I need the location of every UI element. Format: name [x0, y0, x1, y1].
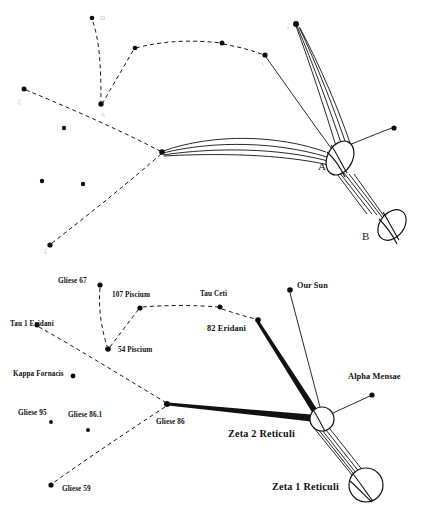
faint-label-zeta-bottom: ζ [44, 247, 47, 255]
star-dot-82-eridani [255, 317, 261, 323]
lower-panel-group: Gliese 67 107 Piscium 54 Piscium Tau Cet… [10, 277, 401, 502]
star-dot [159, 149, 165, 155]
dash-tauceti-82eridani [222, 309, 256, 319]
star-dot-tau-ceti [218, 305, 223, 310]
star-map-figure: D ζ ζ ι ι η A B [0, 0, 428, 521]
link-gliese86-zeta2 [168, 403, 311, 422]
zeta-bundle-1 [314, 428, 352, 475]
zeta-bundle-2 [318, 429, 356, 477]
dash-tau1eridani-gliese86 [39, 327, 165, 402]
faint-label-iota-1: ι [287, 24, 289, 32]
star-label-gliese-59: Gliese 59 [62, 485, 91, 493]
star-label-our-sun: Our Sun [297, 281, 328, 290]
upper-dashed-route-arc [102, 49, 134, 104]
star-dot [81, 182, 85, 186]
faint-label-iota-2: ι [262, 60, 264, 68]
star-dot [47, 242, 52, 247]
star-dot [40, 179, 44, 183]
upper-beam-11-c [163, 150, 328, 161]
dash-54piscium-107piscium [110, 310, 138, 347]
star-label-107-piscium: 107 Piscium [112, 291, 150, 299]
star-dot-gliese-59 [48, 482, 53, 487]
body-b-shape [372, 204, 412, 246]
star-dot-gliese-67 [97, 282, 102, 287]
star-label-54-piscium: 54 Piscium [118, 346, 152, 354]
star-dot [262, 52, 267, 57]
star-dot-gliese-86 [164, 401, 170, 407]
upper-dashed-sweep-down [52, 154, 161, 243]
star-label-tau-1-eridani: Tau 1 Eridani [10, 320, 54, 328]
upper-dashed-route-arc3 [223, 44, 264, 55]
star-dot [220, 41, 225, 46]
zeta-bundle-3 [322, 430, 360, 478]
star-label-tau-ceti: Tau Ceti [200, 290, 227, 298]
faint-label-d: D [100, 14, 105, 22]
star-label-gliese-86: Gliese 86 [156, 418, 185, 426]
star-dot-gliese-86-1 [86, 428, 90, 432]
faint-label-zeta-left: ζ [18, 98, 21, 106]
faint-label-eta: η [101, 110, 105, 118]
diagram-canvas: D ζ ζ ι ι η A B [0, 0, 428, 521]
dash-gliese67-54piscium [99, 288, 107, 346]
upper-beam-12-c [299, 27, 347, 147]
upper-dashed-sweep-left [26, 90, 160, 151]
star-dot [62, 126, 66, 130]
star-dot [391, 125, 396, 130]
label-zeta-1-reticuli: Zeta 1 Reticuli [272, 481, 339, 492]
star-dot-alpha-mensae [369, 392, 374, 397]
star-dot [90, 16, 95, 21]
star-dot-107-piscium [137, 305, 142, 310]
link-oursun-zeta2 [290, 293, 320, 407]
star-dot-kappa-fornacis [71, 374, 76, 379]
star-label-gliese-67: Gliese 67 [58, 277, 87, 285]
upper-panel-group: D ζ ζ ι ι η A B [18, 14, 412, 255]
upper-ab-beam-3 [344, 173, 377, 215]
star-dot-gliese-95 [49, 420, 53, 424]
upper-ab-beam-4 [349, 174, 382, 217]
upper-beam-12-b [297, 26, 342, 146]
star-dot [22, 87, 27, 92]
star-dot-54-piscium [105, 346, 111, 352]
star-dot [98, 101, 103, 106]
label-zeta-2-reticuli: Zeta 2 Reticuli [228, 428, 295, 439]
star-label-82-eridani: 82 Eridani [207, 324, 247, 333]
star-dot-our-sun [287, 287, 293, 293]
star-dot [133, 46, 138, 51]
star-label-alpha-mensae: Alpha Mensae [348, 372, 401, 381]
star-label-gliese-86-1: Gliese 86.1 [68, 411, 103, 419]
star-label-gliese-95: Gliese 95 [18, 409, 47, 417]
star-dot [293, 21, 299, 27]
upper-dashed-route-top [93, 22, 101, 101]
link-82eridani-zeta2 [256, 321, 317, 412]
body-b-label: B [362, 230, 369, 242]
dash-107piscium-tauceti [143, 306, 218, 308]
upper-dashed-route-arc2 [136, 41, 221, 48]
link-zeta2-alphamensae [333, 396, 370, 413]
body-a-label: A [318, 160, 326, 172]
star-label-kappa-fornacis: Kappa Fornacis [13, 370, 64, 378]
